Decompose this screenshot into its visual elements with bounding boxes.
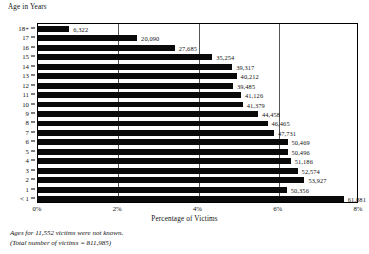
bar-value-label: 44,458 bbox=[262, 110, 280, 117]
y-tick-label-12: 12 bbox=[22, 81, 29, 88]
table-row: 51,186 bbox=[38, 158, 357, 164]
y-axis-tick-labels: 18+1716151413121110987654321< 1 bbox=[0, 23, 35, 203]
table-row: 50,356 bbox=[38, 187, 357, 193]
table-row: 20,090 bbox=[38, 35, 357, 41]
x-tick-label-4pct: 4% bbox=[193, 205, 202, 212]
bar-value-label: 47,731 bbox=[278, 129, 296, 136]
table-row: 39,317 bbox=[38, 64, 357, 70]
bar[interactable] bbox=[38, 139, 288, 145]
chart-page: Age in Years 6,32220,09027,68535,25439,3… bbox=[0, 0, 369, 254]
bar[interactable] bbox=[38, 35, 137, 41]
y-tick-mark bbox=[31, 94, 35, 95]
bar[interactable] bbox=[38, 83, 233, 89]
y-tick-mark bbox=[31, 65, 35, 66]
y-tick-label-17: 17 bbox=[22, 34, 29, 41]
table-row: 44,458 bbox=[38, 111, 357, 117]
bar-rows: 6,32220,09027,68535,25439,31740,21239,48… bbox=[38, 24, 357, 202]
table-row: 41,126 bbox=[38, 92, 357, 98]
bar[interactable] bbox=[38, 54, 212, 60]
table-row: 35,254 bbox=[38, 54, 357, 60]
plot-area: 6,32220,09027,68535,25439,31740,21239,48… bbox=[37, 23, 358, 203]
y-axis-title: Age in Years bbox=[8, 3, 47, 11]
bar-value-label: 35,254 bbox=[216, 54, 234, 61]
bar-value-label: 50,356 bbox=[291, 186, 309, 193]
y-tick-label-16: 16 bbox=[22, 43, 29, 50]
y-tick-mark bbox=[31, 103, 35, 104]
bar[interactable] bbox=[38, 149, 288, 155]
y-tick-mark bbox=[31, 75, 35, 76]
bar-value-label: 20,090 bbox=[141, 35, 159, 42]
bar[interactable] bbox=[38, 130, 274, 136]
bar[interactable] bbox=[38, 45, 175, 51]
y-tick-label-2: 2 bbox=[26, 176, 29, 183]
bar[interactable] bbox=[38, 102, 243, 108]
x-tick-label-0pct: 0% bbox=[32, 205, 41, 212]
bar-value-label: 61,881 bbox=[348, 196, 366, 203]
table-row: 6,322 bbox=[38, 26, 357, 32]
y-tick-label-9: 9 bbox=[26, 110, 29, 117]
table-row: 61,881 bbox=[38, 196, 357, 202]
y-tick-label-8: 8 bbox=[26, 119, 29, 126]
x-tick-label-6pct: 6% bbox=[273, 205, 282, 212]
table-row: 50,496 bbox=[38, 149, 357, 155]
bar-value-label: 52,574 bbox=[302, 167, 320, 174]
y-tick-label-13: 13 bbox=[22, 72, 29, 79]
table-row: 27,685 bbox=[38, 45, 357, 51]
bar-value-label: 51,186 bbox=[295, 158, 313, 165]
y-tick-mark bbox=[31, 27, 35, 28]
bar[interactable] bbox=[38, 121, 268, 127]
x-tick-label-8pct: 8% bbox=[353, 205, 362, 212]
y-tick-mark bbox=[31, 37, 35, 38]
bar-value-label: 50,496 bbox=[292, 148, 310, 155]
bar-value-label: 39,485 bbox=[237, 82, 255, 89]
footnote-total-victims: (Total number of victims = 811,985) bbox=[10, 239, 123, 249]
bar-value-label: 6,322 bbox=[73, 25, 88, 32]
bar[interactable] bbox=[38, 177, 304, 183]
y-tick-mark bbox=[31, 179, 35, 180]
y-tick-label-14: 14 bbox=[22, 62, 29, 69]
bar[interactable] bbox=[38, 168, 298, 174]
bar-value-label: 41,379 bbox=[247, 101, 265, 108]
bar-value-label: 41,126 bbox=[245, 92, 263, 99]
bar[interactable] bbox=[38, 196, 344, 202]
y-tick-label-4: 4 bbox=[26, 157, 29, 164]
y-tick-label-7: 7 bbox=[26, 128, 29, 135]
y-tick-label-3: 3 bbox=[26, 166, 29, 173]
y-tick-label-1: 1 bbox=[26, 185, 29, 192]
y-tick-mark bbox=[31, 150, 35, 151]
y-tick-label-6: 6 bbox=[26, 138, 29, 145]
bar[interactable] bbox=[38, 26, 69, 32]
table-row: 47,731 bbox=[38, 130, 357, 136]
bar-value-label: 39,317 bbox=[236, 63, 254, 70]
x-axis-title: Percentage of Victims bbox=[0, 215, 369, 223]
y-tick-label-18+: 18+ bbox=[18, 24, 29, 31]
y-tick-mark bbox=[31, 84, 35, 85]
y-tick-mark bbox=[31, 188, 35, 189]
table-row: 53,927 bbox=[38, 177, 357, 183]
y-tick-mark bbox=[31, 131, 35, 132]
y-tick-mark bbox=[31, 141, 35, 142]
bar[interactable] bbox=[38, 187, 287, 193]
bar[interactable] bbox=[38, 92, 241, 98]
bar-value-label: 53,927 bbox=[308, 177, 326, 184]
y-tick-label-10: 10 bbox=[22, 100, 29, 107]
table-row: 52,574 bbox=[38, 168, 357, 174]
bar[interactable] bbox=[38, 64, 232, 70]
footnote-unknown-ages: Ages for 11,552 victims were not known. bbox=[10, 229, 123, 239]
y-tick-mark bbox=[31, 169, 35, 170]
y-tick-mark bbox=[31, 56, 35, 57]
bar-value-label: 46,465 bbox=[272, 120, 290, 127]
bar[interactable] bbox=[38, 158, 291, 164]
bar-value-label: 27,685 bbox=[179, 44, 197, 51]
table-row: 50,469 bbox=[38, 139, 357, 145]
y-tick-mark bbox=[31, 122, 35, 123]
bar-value-label: 50,469 bbox=[292, 139, 310, 146]
y-tick-mark bbox=[31, 160, 35, 161]
bar[interactable] bbox=[38, 73, 237, 79]
y-tick-label-1: < 1 bbox=[20, 195, 29, 202]
y-tick-mark bbox=[31, 46, 35, 47]
y-tick-label-11: 11 bbox=[22, 91, 29, 98]
bar[interactable] bbox=[38, 111, 258, 117]
table-row: 40,212 bbox=[38, 73, 357, 79]
x-tick-label-2pct: 2% bbox=[113, 205, 122, 212]
